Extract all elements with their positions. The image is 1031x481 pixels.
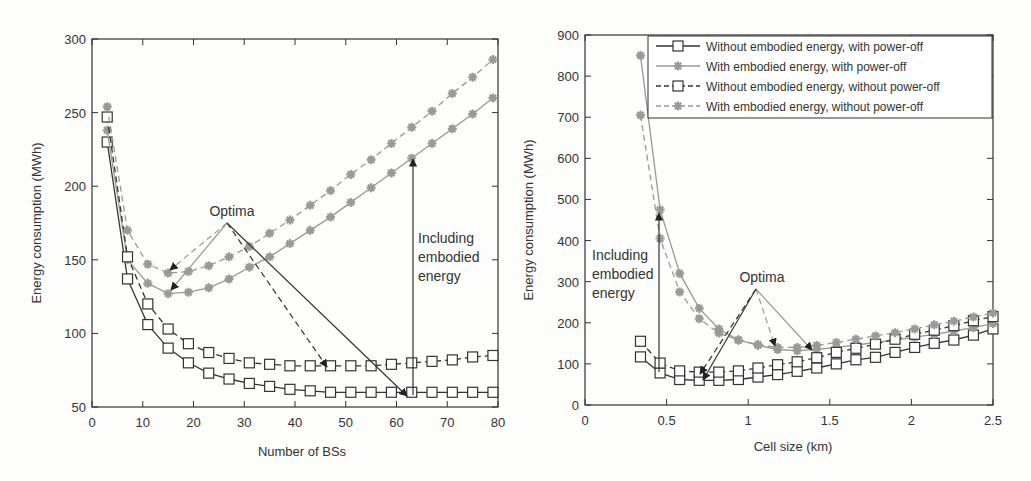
- star-marker-icon: [793, 343, 802, 352]
- star-marker-icon: [812, 341, 821, 350]
- left-series-group: [102, 55, 498, 397]
- right-annotations: OptimaIncludingembodiedenergy: [592, 213, 812, 380]
- x-tick-label: 1.5: [821, 413, 839, 428]
- y-tick-label: 50: [72, 400, 86, 415]
- square-marker-icon: [305, 361, 315, 371]
- square-marker-icon: [773, 360, 783, 370]
- star-marker-icon: [871, 331, 880, 340]
- left-plot-frame: [92, 39, 498, 407]
- star-marker-icon: [448, 124, 457, 133]
- x-tick-label: 0: [88, 415, 95, 430]
- square-marker-icon: [265, 359, 275, 369]
- star-marker-icon: [285, 216, 294, 225]
- square-marker-icon: [143, 299, 153, 309]
- x-tick-label: 0.5: [658, 413, 676, 428]
- star-marker-icon: [285, 239, 294, 248]
- star-marker-icon: [910, 324, 919, 333]
- series-line: [641, 115, 994, 347]
- square-marker-icon: [792, 357, 802, 367]
- square-marker-icon: [183, 358, 193, 368]
- y-tick-label: 150: [64, 253, 86, 268]
- square-marker-icon: [265, 381, 275, 391]
- series-4: [636, 111, 998, 352]
- left-chart: 0102030405060708050100150200250300 Optim…: [29, 32, 505, 459]
- x-tick-label: 70: [440, 415, 454, 430]
- square-marker-icon: [123, 252, 133, 262]
- x-tick-label: 2.5: [984, 413, 1002, 428]
- star-marker-icon: [306, 201, 315, 210]
- x-tick-label: 60: [389, 415, 403, 430]
- star-marker-icon: [674, 102, 683, 111]
- star-marker-icon: [103, 102, 112, 111]
- including-embodied-label: embodied: [418, 249, 480, 265]
- square-marker-icon: [870, 339, 880, 349]
- star-marker-icon: [675, 269, 684, 278]
- legend-label: With embodied energy, with power-off: [706, 60, 907, 74]
- square-marker-icon: [123, 274, 133, 284]
- y-tick-label: 100: [557, 357, 579, 372]
- x-tick-label: 1: [745, 413, 752, 428]
- star-marker-icon: [468, 73, 477, 82]
- y-tick-label: 0: [572, 398, 579, 413]
- square-marker-icon: [812, 353, 822, 363]
- square-marker-icon: [143, 320, 153, 330]
- left-y-axis-label: Energy consumption (MWh): [29, 142, 44, 303]
- square-marker-icon: [949, 335, 959, 345]
- star-marker-icon: [346, 170, 355, 179]
- square-marker-icon: [407, 358, 417, 368]
- square-marker-icon: [488, 350, 498, 360]
- square-marker-icon: [407, 387, 417, 397]
- star-marker-icon: [184, 288, 193, 297]
- square-marker-icon: [386, 359, 396, 369]
- square-marker-icon: [870, 352, 880, 362]
- star-marker-icon: [367, 183, 376, 192]
- square-marker-icon: [285, 361, 295, 371]
- square-marker-icon: [326, 387, 336, 397]
- legend-label: Without embodied energy, with power-off: [706, 40, 924, 54]
- square-marker-icon: [224, 353, 234, 363]
- star-marker-icon: [204, 261, 213, 270]
- star-marker-icon: [387, 168, 396, 177]
- square-marker-icon: [326, 361, 336, 371]
- square-marker-icon: [447, 387, 457, 397]
- star-marker-icon: [346, 198, 355, 207]
- square-marker-icon: [694, 367, 704, 377]
- square-marker-icon: [733, 366, 743, 376]
- star-marker-icon: [407, 123, 416, 132]
- square-marker-icon: [910, 342, 920, 352]
- square-marker-icon: [224, 374, 234, 384]
- y-tick-label: 100: [64, 326, 86, 341]
- star-marker-icon: [326, 213, 335, 222]
- star-marker-icon: [753, 340, 762, 349]
- star-marker-icon: [636, 51, 645, 60]
- y-tick-label: 250: [64, 106, 86, 121]
- star-marker-icon: [734, 336, 743, 345]
- square-marker-icon: [812, 363, 822, 373]
- square-marker-icon: [366, 387, 376, 397]
- star-marker-icon: [656, 234, 665, 243]
- star-marker-icon: [832, 338, 841, 347]
- star-marker-icon: [407, 154, 416, 163]
- star-marker-icon: [969, 313, 978, 322]
- star-marker-icon: [468, 110, 477, 119]
- x-tick-label: 10: [136, 415, 150, 430]
- square-marker-icon: [890, 347, 900, 357]
- square-marker-icon: [655, 368, 665, 378]
- square-marker-icon: [204, 368, 214, 378]
- square-marker-icon: [427, 356, 437, 366]
- square-marker-icon: [468, 387, 478, 397]
- star-marker-icon: [488, 55, 497, 64]
- star-marker-icon: [428, 107, 437, 116]
- square-marker-icon: [346, 361, 356, 371]
- square-marker-icon: [163, 324, 173, 334]
- optima-label: Optima: [739, 269, 784, 285]
- star-marker-icon: [428, 139, 437, 148]
- star-marker-icon: [949, 317, 958, 326]
- legend-label: Without embodied energy, without power-o…: [706, 80, 940, 94]
- right-y-axis-label: Energy consumption (MWh): [521, 139, 536, 300]
- y-tick-label: 200: [557, 316, 579, 331]
- star-marker-icon: [204, 283, 213, 292]
- x-tick-label: 2: [908, 413, 915, 428]
- square-marker-icon: [163, 343, 173, 353]
- square-marker-icon: [831, 359, 841, 369]
